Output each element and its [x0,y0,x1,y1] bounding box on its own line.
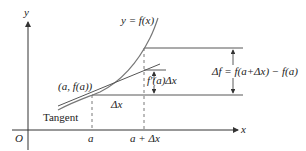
tangent-label: Tangent [43,111,78,123]
y-axis-label: y [23,6,29,18]
fprime-dx-label: f′(a)Δx [147,74,177,87]
origin-label: O [15,132,23,144]
tick-a-dx-label: a + Δx [130,132,160,144]
point-label: (a, f(a)) [58,80,93,93]
curve-label: y = f(x) [120,14,154,27]
dx-label: Δx [110,98,122,110]
tick-a-label: a [88,132,94,144]
diagram-canvas: y x O y = f(x) (a, f(a)) Tangent Δx f′(a… [0,0,306,151]
curve-f [58,18,158,110]
delta-f-label: Δf = f(a+Δx) − f(a) [211,65,298,78]
x-axis-label: x [240,123,246,135]
